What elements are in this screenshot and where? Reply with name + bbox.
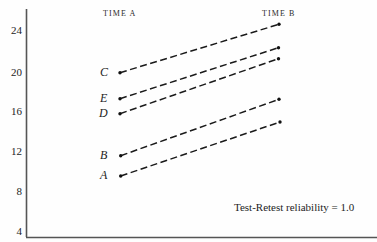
marker-a-time-a — [119, 174, 122, 177]
marker-b-time-a — [119, 154, 122, 157]
marker-c-time-b — [277, 23, 280, 26]
test-retest-reliability-chart: 24 20 16 12 8 4 TIME A TIME B C E D B A … — [0, 0, 377, 242]
marker-d-time-b — [277, 57, 280, 60]
marker-c-time-a — [118, 71, 121, 74]
series-label-d: D — [99, 107, 108, 119]
series-label-a: A — [100, 169, 107, 181]
series-label-c: C — [100, 66, 108, 78]
marker-d-time-a — [118, 112, 121, 115]
y-tick-label-24: 24 — [4, 25, 22, 36]
marker-a-time-b — [278, 120, 281, 123]
y-tick-label-20: 20 — [4, 67, 22, 78]
marker-b-time-b — [277, 98, 280, 101]
series-line-b — [119, 98, 281, 158]
series-label-b: B — [100, 149, 107, 161]
series-line-c — [118, 23, 280, 75]
series-line-a — [119, 120, 282, 177]
column-header-time-b: TIME B — [262, 10, 296, 18]
reliability-note: Test-Retest reliability = 1.0 — [234, 202, 354, 213]
y-tick-label-4: 4 — [4, 226, 22, 237]
y-tick-label-16: 16 — [4, 106, 22, 117]
series-line-e — [118, 46, 280, 100]
marker-e-time-a — [118, 97, 121, 100]
marker-e-time-b — [277, 46, 280, 49]
column-header-time-a: TIME A — [103, 10, 137, 18]
y-tick-label-12: 12 — [4, 146, 22, 157]
y-tick-label-8: 8 — [4, 186, 22, 197]
series-label-e: E — [100, 92, 107, 104]
